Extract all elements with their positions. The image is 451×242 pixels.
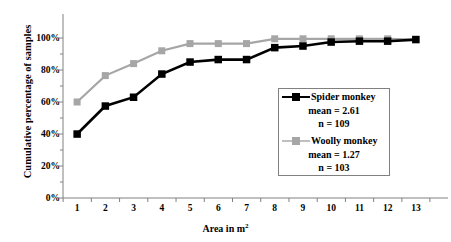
x-tick-label-4: 4 [152,203,172,213]
legend-entry-woolly-monkey: Woolly monkey mean = 1.27 n = 103 [279,133,389,177]
legend: Spider monkey mean = 2.61 n = 109 Woolly… [278,88,390,176]
x-tick-label-6: 6 [208,203,228,213]
data-point [299,42,307,50]
x-axis-title: Area in m2 [0,222,451,234]
x-tick-label-2: 2 [95,203,115,213]
data-point [186,58,194,66]
x-tick-label-3: 3 [124,203,144,213]
x-axis-title-superscript: 2 [245,222,249,230]
chart-container: Cumulative percentage of samples 0%20%40… [0,0,451,242]
data-point [215,56,223,64]
x-tick-label-7: 7 [237,203,257,213]
data-point [271,44,279,52]
data-point [130,60,137,67]
legend-swatch-spider-monkey [282,91,310,102]
data-point [130,94,138,102]
data-point [215,40,222,47]
data-point [158,47,165,54]
data-point [412,36,420,44]
data-point [102,72,109,79]
data-point [158,70,166,78]
x-tick-label-11: 11 [349,203,369,213]
legend-label-spider-monkey: Spider monkey [310,91,376,102]
data-point [300,35,307,42]
x-tick-label-10: 10 [321,203,341,213]
data-point [271,35,278,42]
data-point [243,40,250,47]
legend-mean-woolly-monkey: mean = 1.27 [279,148,389,161]
legend-n-spider-monkey: n = 109 [279,117,389,130]
x-tick-label-13: 13 [406,203,426,213]
data-point [384,37,392,45]
data-point [73,130,81,138]
legend-entry-spider-monkey: Spider monkey mean = 2.61 n = 109 [279,89,389,133]
x-tick-label-5: 5 [180,203,200,213]
legend-label-woolly-monkey: Woolly monkey [310,135,377,146]
x-axis-title-base: Area in m [202,223,245,234]
x-tick-label-1: 1 [67,203,87,213]
legend-mean-spider-monkey: mean = 2.61 [279,104,389,117]
data-point [327,38,335,46]
x-tick-label-8: 8 [265,203,285,213]
data-point [187,40,194,47]
data-point [243,56,251,64]
legend-swatch-woolly-monkey [282,135,310,146]
x-tick-label-12: 12 [378,203,398,213]
data-point [356,37,364,45]
legend-n-woolly-monkey: n = 103 [279,161,389,174]
x-tick-label-9: 9 [293,203,313,213]
data-point [102,102,110,110]
data-point [74,99,81,106]
